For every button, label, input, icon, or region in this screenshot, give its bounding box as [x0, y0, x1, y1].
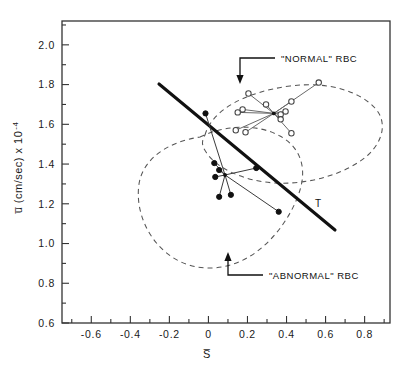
y-tick-label: 2.0	[38, 39, 55, 51]
x-tick-label: -0.2	[159, 328, 180, 340]
y-tick-label: 1.6	[38, 118, 55, 130]
abnormal-data-point	[217, 167, 222, 172]
y-tick-label: 0.6	[38, 317, 55, 329]
figure-container: -0.6-0.4-0.200.20.40.60.8 0.60.81.01.21.…	[0, 0, 411, 370]
scatter-plot: -0.6-0.4-0.200.20.40.60.8 0.60.81.01.21.…	[0, 0, 411, 370]
y-tick-label: 1.0	[38, 237, 55, 249]
x-axis-title: S̅	[203, 348, 211, 360]
normal-data-point	[263, 102, 268, 107]
abnormal-data-point	[228, 192, 233, 197]
normal-data-point	[289, 131, 294, 136]
normal-data-point	[235, 110, 240, 115]
abnormal-data-point	[254, 165, 259, 170]
x-tick-label: 0.8	[356, 328, 373, 340]
y-tick-label: 1.4	[38, 158, 55, 170]
normal-data-point	[289, 99, 294, 104]
y-axis-title-main: u̅ (cm/sec) x 10	[12, 131, 24, 215]
x-tick-label: -0.4	[120, 328, 141, 340]
y-axis-title-exponent: -4	[11, 121, 20, 129]
normal-rbc-annotation-label: "NORMAL" RBC	[281, 53, 357, 64]
normal-data-point	[233, 128, 238, 133]
line-T-label: T	[315, 198, 321, 209]
normal-data-point	[316, 80, 321, 85]
y-tick-label: 1.8	[38, 78, 55, 90]
y-tick-label: 1.2	[38, 198, 55, 210]
abnormal-rbc-annotation-label: "ABNORMAL" RBC	[269, 270, 359, 281]
x-tick-label: 0.6	[317, 328, 334, 340]
x-tick-label: 0	[205, 328, 212, 340]
x-axis-tick-labels: -0.6-0.4-0.200.20.40.60.8	[81, 328, 373, 340]
abnormal-data-point	[203, 111, 208, 116]
x-tick-label: 0.2	[239, 328, 256, 340]
series-centroid	[223, 173, 227, 177]
abnormal-data-point	[212, 160, 217, 165]
normal-data-point	[243, 130, 248, 135]
x-tick-label: 0.4	[278, 328, 295, 340]
normal-data-point	[278, 117, 283, 122]
y-axis-tick-labels: 0.60.81.01.21.41.61.82.0	[38, 39, 55, 329]
y-tick-label: 0.8	[38, 277, 55, 289]
abnormal-data-point	[217, 194, 222, 199]
normal-data-point	[246, 91, 251, 96]
x-tick-label: -0.6	[81, 328, 102, 340]
y-axis-title: u̅ (cm/sec) x 10 -4	[11, 121, 25, 214]
abnormal-data-point	[213, 174, 218, 179]
abnormal-data-point	[276, 209, 281, 214]
series-centroid	[272, 111, 276, 115]
